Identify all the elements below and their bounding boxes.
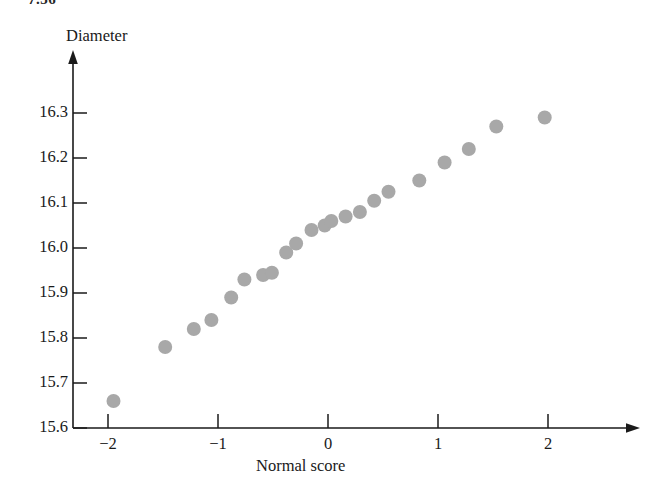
data-point bbox=[438, 156, 452, 170]
y-tick-label: 16.3 bbox=[22, 102, 68, 122]
y-axis-arrowhead bbox=[68, 50, 78, 64]
x-tick-label: −2 bbox=[93, 434, 123, 454]
x-axis-arrowhead bbox=[626, 423, 640, 433]
figure-page: 7.36 Diameter Normal score bbox=[0, 0, 651, 496]
data-point bbox=[237, 273, 251, 287]
y-tick-label: 16.1 bbox=[22, 192, 68, 212]
data-point bbox=[107, 394, 121, 408]
data-point bbox=[305, 223, 319, 237]
data-point bbox=[538, 111, 552, 125]
y-tick-label: 15.7 bbox=[22, 372, 68, 392]
data-point bbox=[367, 194, 381, 208]
y-tick-label: 16.2 bbox=[22, 147, 68, 167]
y-tick-label: 16.0 bbox=[22, 237, 68, 257]
data-point bbox=[187, 322, 201, 336]
data-point bbox=[339, 210, 353, 224]
x-tick-label: −1 bbox=[203, 434, 233, 454]
data-point bbox=[462, 142, 476, 156]
axes bbox=[68, 50, 640, 433]
data-point bbox=[382, 185, 396, 199]
data-point bbox=[224, 291, 238, 305]
y-tick-label: 15.6 bbox=[22, 417, 68, 437]
x-tick-label: 1 bbox=[423, 434, 453, 454]
data-point bbox=[324, 214, 338, 228]
y-tick-label: 15.8 bbox=[22, 327, 68, 347]
data-point bbox=[412, 174, 426, 188]
x-tick-label: 2 bbox=[533, 434, 563, 454]
data-point-group bbox=[107, 111, 552, 409]
y-tick-label: 15.9 bbox=[22, 282, 68, 302]
scatter-plot-canvas bbox=[0, 0, 651, 496]
y-axis-ticks bbox=[73, 113, 87, 428]
x-axis-ticks bbox=[108, 414, 548, 428]
data-point bbox=[353, 205, 367, 219]
data-point bbox=[265, 266, 279, 280]
data-point bbox=[204, 313, 218, 327]
data-point bbox=[158, 340, 172, 354]
data-point bbox=[489, 120, 503, 134]
data-point bbox=[289, 237, 303, 251]
x-tick-label: 0 bbox=[313, 434, 343, 454]
